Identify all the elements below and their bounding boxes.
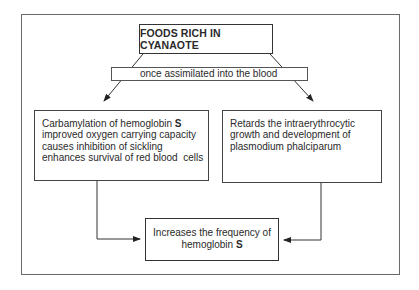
condition-bar: once assimilated into the blood bbox=[111, 67, 308, 81]
left-box-line-4: enhances survival of red blood cells bbox=[42, 152, 208, 163]
arrow-right-to-result bbox=[284, 183, 321, 240]
condition-bar-label: once assimilated into the blood bbox=[140, 68, 277, 79]
arrow-left-to-result bbox=[97, 181, 140, 239]
plasmodium-retardation-box: Retards the intraerythrocytic growth and… bbox=[222, 110, 382, 183]
result-box-line-2: hemoglobin S bbox=[146, 239, 278, 251]
right-box-line-3: plasmodium phalciparum bbox=[230, 141, 381, 152]
left-box-line-1: Carbamylation of hemoglobin S bbox=[42, 118, 208, 129]
result-box-line-1: Increases the frequency of bbox=[146, 227, 278, 239]
right-box-line-1: Retards the intraerythrocytic bbox=[230, 118, 381, 129]
right-box-line-2: growth and development of bbox=[230, 129, 381, 140]
title-box-label: FOODS RICH IN CYANAOTE bbox=[140, 27, 272, 51]
result-box: Increases the frequency of hemoglobin S bbox=[145, 218, 279, 261]
carbamylation-box: Carbamylation of hemoglobin S improved o… bbox=[34, 110, 209, 181]
left-box-line-2: improved oxygen carrying capacity bbox=[42, 129, 208, 140]
foods-rich-in-cyanate-box: FOODS RICH IN CYANAOTE bbox=[139, 24, 273, 54]
left-box-line-3: causes inhibition of sickling bbox=[42, 141, 208, 152]
